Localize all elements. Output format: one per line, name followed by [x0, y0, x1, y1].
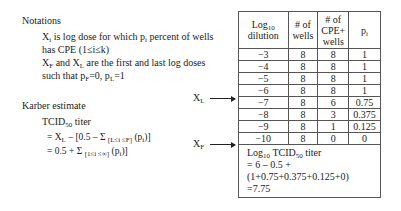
table-row: −5881 — [239, 73, 381, 85]
cell-cpe: 1 — [318, 121, 349, 133]
titer-line-3: (1+0.75+0.375+0.125+0) — [247, 171, 380, 183]
xf-marker-label: XF — [193, 138, 204, 150]
titer-line-4: =7.75 — [247, 183, 380, 195]
cell-dilution: −10 — [239, 133, 289, 145]
cell-p: 1 — [349, 49, 381, 61]
cell-dilution: −6 — [239, 85, 289, 97]
header-cpe-wells: # of CPE+ wells — [318, 12, 349, 49]
header-wells: # of wells — [288, 12, 318, 49]
karber-heading: Karber estimate — [22, 100, 86, 112]
cell-p: 0 — [349, 133, 381, 145]
titer-line-1: Log10 TCID50 titer — [247, 147, 380, 159]
karber-equation-2: = 0.5 + Σ [1≤i ≤∞] (pi)] — [47, 145, 128, 157]
karber-titer-label: TCID50 titer — [42, 116, 91, 128]
table-row: −4881 — [239, 61, 381, 73]
cell-wells: 8 — [288, 49, 318, 61]
cell-p: 0.125 — [349, 121, 381, 133]
header-log-dilution: Log10dilution — [239, 12, 289, 49]
cell-p: 1 — [349, 61, 381, 73]
cell-cpe: 0 — [318, 133, 349, 145]
xl-arrow-icon — [210, 98, 235, 99]
cell-dilution: −5 — [239, 73, 289, 85]
cell-cpe: 6 — [318, 97, 349, 109]
notation-line-2: has CPE (1≤i≤k) — [42, 44, 109, 56]
dilution-table: Log10dilution # of wells # of CPE+ wells… — [238, 11, 381, 198]
cell-wells: 8 — [288, 109, 318, 121]
cell-p: 0.75 — [349, 97, 381, 109]
cell-cpe: 8 — [318, 73, 349, 85]
cell-p: 1 — [349, 73, 381, 85]
table-footer-row: Log10 TCID50 titer = 6 – 0.5 + (1+0.75+0… — [239, 145, 381, 198]
notation-line-3: XF and XL are the first and last log dos… — [42, 57, 205, 69]
titer-line-2: = 6 – 0.5 + — [247, 159, 380, 171]
cell-p: 0.375 — [349, 109, 381, 121]
cell-wells: 8 — [288, 133, 318, 145]
cell-wells: 8 — [288, 97, 318, 109]
notation-line-1: Xi is log dose for which pi percent of w… — [42, 31, 213, 43]
cell-wells: 8 — [288, 73, 318, 85]
cell-cpe: 8 — [318, 61, 349, 73]
cell-wells: 8 — [288, 61, 318, 73]
cell-cpe: 8 — [318, 85, 349, 97]
cell-cpe: 3 — [318, 109, 349, 121]
header-p: pi — [349, 12, 381, 49]
cell-dilution: −3 — [239, 49, 289, 61]
cell-p: 1 — [349, 85, 381, 97]
cell-dilution: −8 — [239, 109, 289, 121]
table-row: −9810.125 — [239, 121, 381, 133]
table-row: −3881 — [239, 49, 381, 61]
xf-arrow-icon — [210, 144, 235, 145]
notation-line-4: such that pF=0, pL=1 — [42, 70, 125, 82]
cell-dilution: −4 — [239, 61, 289, 73]
karber-equation-1: = XL – [0.5 – Σ [L≤i ≤F] (pi)] — [47, 131, 151, 143]
cell-dilution: −7 — [239, 97, 289, 109]
cell-dilution: −9 — [239, 121, 289, 133]
xl-marker-label: XL — [193, 92, 205, 104]
table-row: −6881 — [239, 85, 381, 97]
titer-calculation: Log10 TCID50 titer = 6 – 0.5 + (1+0.75+0… — [239, 145, 381, 198]
table-row: −7860.75 — [239, 97, 381, 109]
table-row: −8830.375 — [239, 109, 381, 121]
table-header-row: Log10dilution # of wells # of CPE+ wells… — [239, 12, 381, 49]
cell-wells: 8 — [288, 121, 318, 133]
cell-cpe: 8 — [318, 49, 349, 61]
table-row: −10800 — [239, 133, 381, 145]
notations-heading: Notations — [22, 15, 61, 27]
cell-wells: 8 — [288, 85, 318, 97]
